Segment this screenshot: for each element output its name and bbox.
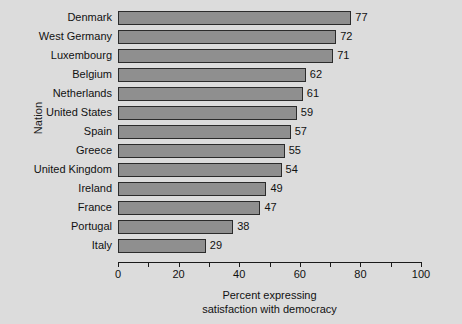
- x-axis-tick: [330, 262, 331, 267]
- bar-row: Spain57: [118, 125, 421, 139]
- x-axis-tick: [179, 262, 180, 267]
- category-label-holder: France: [0, 201, 112, 215]
- bar-value-label: 47: [264, 200, 276, 215]
- x-axis-tick: [391, 262, 392, 267]
- category-label-holder: Portugal: [0, 220, 112, 234]
- category-label: Spain: [84, 124, 112, 139]
- bar: [118, 68, 306, 82]
- category-label-holder: Belgium: [0, 68, 112, 82]
- category-label: Denmark: [67, 10, 112, 25]
- category-label-holder: Netherlands: [0, 87, 112, 101]
- bar: [118, 49, 333, 63]
- bar-row: Greece55: [118, 144, 421, 158]
- category-label: Belgium: [72, 67, 112, 82]
- x-axis-tick: [118, 262, 119, 267]
- bar-chart: Nation Denmark77West Germany72Luxembourg…: [0, 0, 462, 324]
- bar-row: Italy29: [118, 239, 421, 253]
- bar-row: West Germany72: [118, 30, 421, 44]
- x-axis-tick: [148, 262, 149, 267]
- x-axis-title-line-2: satisfaction with democracy: [118, 302, 421, 316]
- bar-value-label: 61: [307, 86, 319, 101]
- x-axis-title-line-1: Percent expressing: [118, 288, 421, 302]
- x-axis-tick-label: 80: [354, 268, 366, 280]
- bar-value-label: 59: [301, 105, 313, 120]
- x-axis-tick-label: 60: [294, 268, 306, 280]
- bar-value-label: 71: [337, 48, 349, 63]
- category-label-holder: West Germany: [0, 30, 112, 44]
- bar: [118, 144, 285, 158]
- bar: [118, 201, 260, 215]
- category-label: United Kingdom: [34, 162, 112, 177]
- bar-value-label: 29: [210, 238, 222, 253]
- x-axis-tick: [360, 262, 361, 267]
- bar-row: Portugal38: [118, 220, 421, 234]
- bar-row: United Kingdom54: [118, 163, 421, 177]
- bar-value-label: 77: [355, 10, 367, 25]
- x-axis-tick: [270, 262, 271, 267]
- x-axis-tick-label: 20: [172, 268, 184, 280]
- x-axis-tick-label: 40: [233, 268, 245, 280]
- bar: [118, 220, 233, 234]
- category-label-holder: Spain: [0, 125, 112, 139]
- category-label-holder: Luxembourg: [0, 49, 112, 63]
- bar: [118, 163, 282, 177]
- category-label: United States: [46, 105, 112, 120]
- category-label-holder: Greece: [0, 144, 112, 158]
- bar-row: Luxembourg71: [118, 49, 421, 63]
- x-axis-title: Percent expressing satisfaction with dem…: [118, 288, 421, 316]
- bar-row: United States59: [118, 106, 421, 120]
- x-axis-tick: [300, 262, 301, 267]
- category-label: Italy: [92, 238, 112, 253]
- bar: [118, 106, 297, 120]
- category-label-holder: Denmark: [0, 11, 112, 25]
- bar-value-label: 55: [289, 143, 301, 158]
- category-label: France: [78, 200, 112, 215]
- bar: [118, 87, 303, 101]
- x-axis-tick-label: 0: [115, 268, 121, 280]
- category-label: Ireland: [78, 181, 112, 196]
- bar: [118, 11, 351, 25]
- bar-value-label: 72: [340, 29, 352, 44]
- bar: [118, 30, 336, 44]
- category-label-holder: United Kingdom: [0, 163, 112, 177]
- bar-value-label: 54: [286, 162, 298, 177]
- x-axis-tick: [421, 262, 422, 267]
- category-label: Luxembourg: [51, 48, 112, 63]
- bar-value-label: 49: [270, 181, 282, 196]
- category-label-holder: United States: [0, 106, 112, 120]
- bar: [118, 125, 291, 139]
- bar-row: Ireland49: [118, 182, 421, 196]
- bar: [118, 239, 206, 253]
- category-label: West Germany: [39, 29, 112, 44]
- bar-row: France47: [118, 201, 421, 215]
- bar-row: Denmark77: [118, 11, 421, 25]
- category-label: Netherlands: [53, 86, 112, 101]
- bar: [118, 182, 266, 196]
- bar-row: Netherlands61: [118, 87, 421, 101]
- x-axis-tick: [239, 262, 240, 267]
- bar-value-label: 62: [310, 67, 322, 82]
- bar-value-label: 38: [237, 219, 249, 234]
- category-label: Greece: [76, 143, 112, 158]
- x-axis-tick: [209, 262, 210, 267]
- bar-value-label: 57: [295, 124, 307, 139]
- category-label-holder: Ireland: [0, 182, 112, 196]
- category-label-holder: Italy: [0, 239, 112, 253]
- bar-row: Belgium62: [118, 68, 421, 82]
- plot-area: Denmark77West Germany72Luxembourg71Belgi…: [118, 11, 421, 258]
- x-axis-tick-label: 100: [412, 268, 430, 280]
- category-label: Portugal: [71, 219, 112, 234]
